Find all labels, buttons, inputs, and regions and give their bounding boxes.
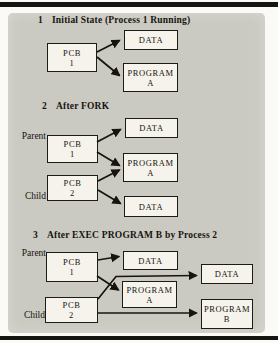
pcb2-box-s3: PCB 2 [45,297,98,323]
section-1-number: 1 [38,15,43,25]
section-3-title: 3After EXEC PROGRAM B by Process 2 [33,230,217,240]
data-box-s2-child: DATA [124,196,178,217]
data-box-s3-child: DATA [201,264,253,284]
data-box-s2-parent: DATA [125,118,178,138]
program-a-box-s1: PROGRAM A [123,63,178,92]
figure-page: 1Initial State (Process 1 Running) 2Afte… [0,0,278,343]
top-rule [0,2,278,7]
section-3-number: 3 [33,230,38,240]
pcb1-box-s3: PCB 1 [46,252,98,282]
data-box-s3-parent: DATA [123,251,178,270]
section-2-title: 2After FORK [42,101,109,111]
program-a-box-s2: PROGRAM A [123,153,178,182]
pcb2-box-s2: PCB 2 [47,175,98,201]
parent-label-s3: Parent [6,248,46,258]
data-box-s1: DATA [124,30,178,50]
child-label-s3: Child [6,310,45,320]
pcb1-box-s2: PCB 1 [47,135,98,163]
parent-label-s2: Parent [6,131,46,141]
section-1-title: 1Initial State (Process 1 Running) [38,15,190,25]
bottom-rule [0,336,278,340]
pcb1-box-s1: PCB 1 [47,43,97,72]
program-b-box-s3: PROGRAM B [201,299,253,329]
child-label-s2: Child [6,191,46,201]
program-a-box-s3: PROGRAM A [122,281,177,308]
section-2-number: 2 [42,101,47,111]
